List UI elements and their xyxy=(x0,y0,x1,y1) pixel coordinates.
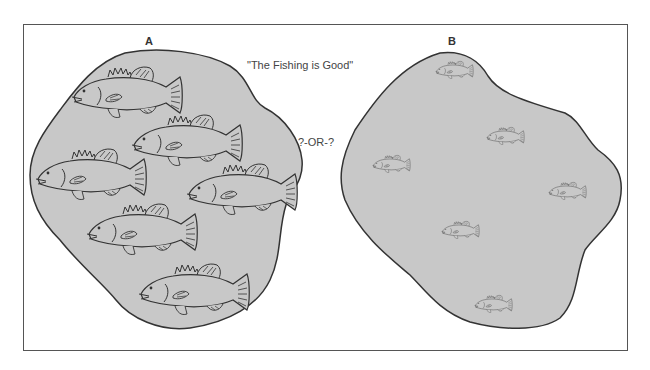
ponds-illustration xyxy=(0,0,650,370)
